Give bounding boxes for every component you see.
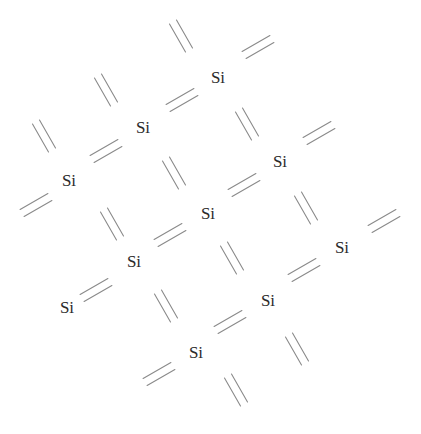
bond-line [101,212,117,240]
bond-line [95,78,111,106]
bond-line [20,194,48,210]
bond-line [90,140,118,156]
bond-line [143,363,171,379]
bond-line [177,20,193,48]
double-bond-backslash [155,290,178,322]
bond-line [372,217,400,233]
double-bond-slash [368,210,400,233]
atom-label-si: Si [136,119,150,136]
bond-line [154,224,182,240]
double-bond-slash [242,36,274,59]
double-bond-slash [303,122,335,145]
atom-label-si: Si [189,344,203,361]
double-bond-slash [154,224,186,247]
bond-line [84,286,112,302]
atom-label-si: Si [127,253,141,270]
bond-line [170,96,198,112]
atom-label-si: Si [273,153,287,170]
atom-label-si: Si [335,239,349,256]
bond-line [288,259,316,275]
atom-label-si: Si [261,292,275,309]
double-bond-backslash [170,20,193,52]
bond-line [242,36,270,52]
atom-label-si: Si [62,172,76,189]
bond-line [236,112,252,140]
bond-line [163,161,179,189]
double-bond-backslash [221,242,244,274]
bond-line [368,210,396,226]
atom-label-si: Si [211,69,225,86]
double-bond-slash [228,174,260,197]
double-bond-slash [90,140,122,163]
bond-line [228,174,256,190]
bond-line [102,74,118,102]
bond-line [155,294,171,322]
bond-line [170,24,186,52]
double-bond-backslash [101,208,124,240]
bond-line [170,157,186,185]
double-bond-slash [80,279,112,302]
bond-line [228,242,244,270]
double-bond-slash [288,259,320,282]
double-bond-slash [143,363,175,386]
double-bond-backslash [295,192,318,224]
atom-label-si: Si [60,299,74,316]
double-bond-backslash [225,374,248,406]
bond-line [295,196,311,224]
double-bond-slash [20,194,52,217]
double-bond-backslash [236,108,259,140]
double-bond-backslash [286,333,309,365]
bond-line [232,181,260,197]
bond-line [302,192,318,220]
bond-line [80,279,108,295]
bond-line [108,208,124,236]
double-bond-backslash [163,157,186,189]
bond-line [303,122,331,138]
double-bond-backslash [95,74,118,106]
bond-line [24,201,52,217]
bond-line [166,89,194,105]
double-bond-slash [166,89,198,112]
bond-line [286,337,302,365]
bond-line [40,120,56,148]
bond-line [33,124,49,152]
bond-line [243,108,259,136]
double-bond-slash [214,311,246,334]
bond-line [218,318,246,334]
double-bond-backslash [33,120,56,152]
atom-label-si: Si [201,205,215,222]
bond-line [293,333,309,361]
bond-line [158,231,186,247]
bond-line [147,370,175,386]
bond-line [225,378,241,406]
bond-line [292,266,320,282]
bond-line [246,43,274,59]
bond-line [162,290,178,318]
bond-line [214,311,242,327]
bond-line [94,147,122,163]
bond-line [307,129,335,145]
bond-line [232,374,248,402]
bond-line [221,246,237,274]
